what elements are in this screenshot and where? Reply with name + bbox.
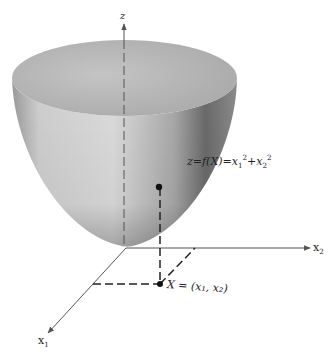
surface-point <box>156 184 162 190</box>
z-axis-label: z <box>120 11 125 21</box>
equation-term1-sub: 1 <box>238 161 243 170</box>
equation-label: z=f(X)=x12+x22 <box>187 154 272 169</box>
equation-lhs: z=f(X)= <box>187 155 232 168</box>
equation-term2-sub: 2 <box>262 161 267 170</box>
paraboloid-top-face <box>12 40 237 116</box>
x1-axis-label: x1 <box>38 335 49 348</box>
x2-axis-label: x2 <box>313 242 324 255</box>
domain-point <box>157 281 163 287</box>
x1-label-sub: 1 <box>44 340 49 349</box>
paraboloid-diagram <box>0 0 333 352</box>
x1-axis <box>48 248 126 333</box>
equation-plus: + <box>247 155 256 168</box>
equation-term2-sup: 2 <box>267 153 272 162</box>
x2-label-sub: 2 <box>319 247 324 256</box>
